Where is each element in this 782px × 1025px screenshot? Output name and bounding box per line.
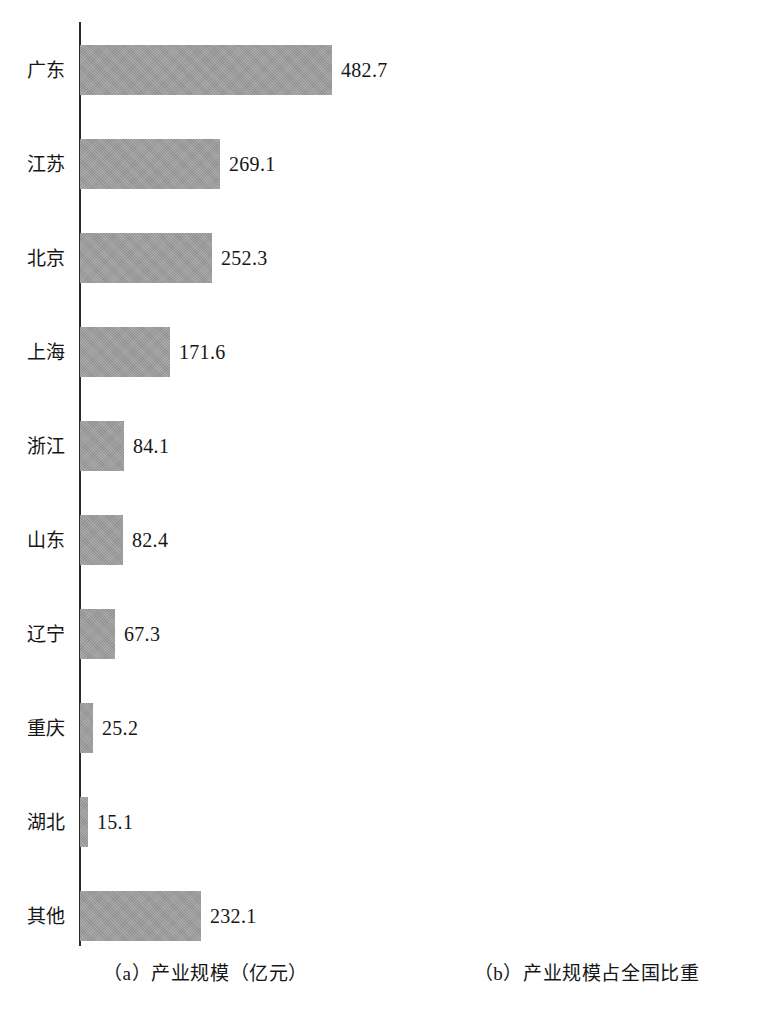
- bar-row: 江苏16.0%: [391, 117, 782, 211]
- bar-row: 湖北0.9%: [391, 775, 782, 869]
- bar: [80, 703, 93, 753]
- bar-value-label: 67.3: [124, 624, 160, 644]
- bar-value-label: 232.1: [210, 906, 257, 926]
- bar: [80, 233, 212, 283]
- bar-row: 其他13.8%: [391, 869, 782, 963]
- plot-area-b: 广东28.7%江苏16.0%北京15.0%上海10.2%浙江5.0%山东4.9%…: [391, 0, 782, 950]
- bar-row: 重庆1.5%: [391, 681, 782, 775]
- category-label: 浙江: [21, 437, 71, 456]
- bar-row: 上海171.6: [0, 305, 391, 399]
- bar: [80, 797, 88, 847]
- category-label: 北京: [21, 249, 71, 268]
- panel-b-caption: （b）产业规模占全国比重: [391, 958, 782, 985]
- bar: [80, 327, 170, 377]
- bar-value-label: 25.2: [102, 718, 138, 738]
- plot-area-a: 广东482.7江苏269.1北京252.3上海171.6浙江84.1山东82.4…: [0, 0, 391, 950]
- bar-row: 北京252.3: [0, 211, 391, 305]
- bar: [80, 45, 332, 95]
- category-label: 广东: [21, 61, 71, 80]
- bar-value-label: 252.3: [221, 248, 268, 268]
- chart-panel-a: 广东482.7江苏269.1北京252.3上海171.6浙江84.1山东82.4…: [0, 0, 391, 1025]
- bar: [80, 421, 124, 471]
- bar-row: 重庆25.2: [0, 681, 391, 775]
- panel-a-caption: （a）产业规模（亿元）: [10, 958, 401, 985]
- bar: [80, 515, 123, 565]
- bar-row: 其他232.1: [0, 869, 391, 963]
- bar-row: 广东28.7%: [391, 23, 782, 117]
- category-label: 山东: [21, 531, 71, 550]
- bar: [80, 891, 201, 941]
- bar-row: 广东482.7: [0, 23, 391, 117]
- bar-value-label: 84.1: [133, 436, 169, 456]
- bar-value-label: 269.1: [229, 154, 276, 174]
- bar-value-label: 82.4: [132, 530, 168, 550]
- bar-row: 浙江84.1: [0, 399, 391, 493]
- category-label: 江苏: [21, 155, 71, 174]
- bar-row: 湖北15.1: [0, 775, 391, 869]
- bar-row: 上海10.2%: [391, 305, 782, 399]
- bar-value-label: 482.7: [341, 60, 388, 80]
- category-label: 重庆: [21, 719, 71, 738]
- bar-row: 山东82.4: [0, 493, 391, 587]
- category-label: 其他: [21, 907, 71, 926]
- category-label: 上海: [21, 343, 71, 362]
- bar-value-label: 15.1: [97, 812, 133, 832]
- bar-row: 浙江5.0%: [391, 399, 782, 493]
- bar-row: 北京15.0%: [391, 211, 782, 305]
- bar: [80, 609, 115, 659]
- category-label: 辽宁: [21, 625, 71, 644]
- bar-value-label: 171.6: [179, 342, 226, 362]
- bar-row: 辽宁4.0%: [391, 587, 782, 681]
- bar-row: 江苏269.1: [0, 117, 391, 211]
- figure-industry-scale: 广东482.7江苏269.1北京252.3上海171.6浙江84.1山东82.4…: [0, 0, 782, 1025]
- bar: [80, 139, 220, 189]
- chart-panel-b: 广东28.7%江苏16.0%北京15.0%上海10.2%浙江5.0%山东4.9%…: [391, 0, 782, 1025]
- bar-row: 辽宁67.3: [0, 587, 391, 681]
- category-label: 湖北: [21, 813, 71, 832]
- bar-row: 山东4.9%: [391, 493, 782, 587]
